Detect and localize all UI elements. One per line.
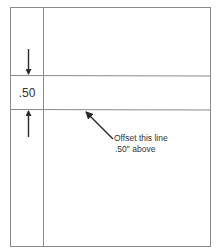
outer-frame [11, 8, 211, 247]
callout-leader-arrow-icon [86, 112, 113, 139]
callout-text-line1: Offset this line [114, 133, 168, 143]
offset-dimension-label: .50 [19, 86, 36, 100]
callout-text-line2: .50" above [115, 144, 156, 154]
offset-diagram: .50 Offset this line .50" above [0, 0, 216, 252]
reference-line [11, 110, 211, 111]
offset-line-top [11, 76, 211, 77]
